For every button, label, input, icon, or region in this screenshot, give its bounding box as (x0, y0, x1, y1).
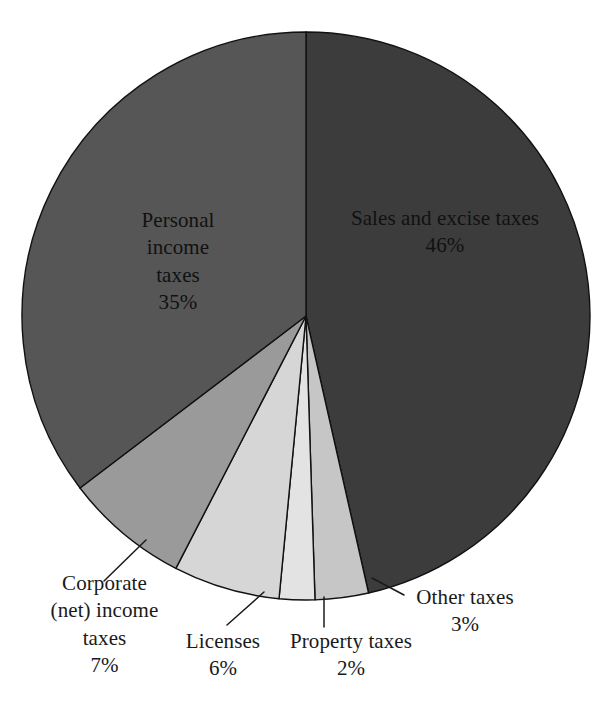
slice-label-text-line-1: Personal (113, 207, 243, 234)
slice-value-text: 35% (113, 289, 243, 316)
slice-value-text: 2% (276, 655, 426, 682)
slice-label-sales-and-excise-taxes: Sales and excise taxes 46% (320, 205, 570, 260)
slice-value-text: 46% (320, 232, 570, 259)
slice-label-text: Sales and excise taxes (320, 205, 570, 232)
slice-label-other-taxes: Other taxes 3% (395, 584, 535, 639)
slice-label-personal-income-taxes: Personal income taxes 35% (113, 207, 243, 316)
slice-label-text: Other taxes (395, 584, 535, 611)
slice-label-licenses: Licenses 6% (163, 628, 283, 683)
slice-label-text-line-3: taxes (113, 262, 243, 289)
pie-slices-group (22, 32, 590, 600)
slice-value-text: 3% (395, 611, 535, 638)
slice-value-text: 6% (163, 655, 283, 682)
slice-label-text: Licenses (163, 628, 283, 655)
slice-label-text-line-2: income (113, 234, 243, 261)
slice-label-text-line-1: Corporate (12, 570, 197, 597)
leader-line-licenses (227, 592, 264, 625)
pie-chart-figure: Sales and excise taxes 46% Personal inco… (0, 0, 611, 712)
slice-label-text-line-2: (net) income (12, 597, 197, 624)
